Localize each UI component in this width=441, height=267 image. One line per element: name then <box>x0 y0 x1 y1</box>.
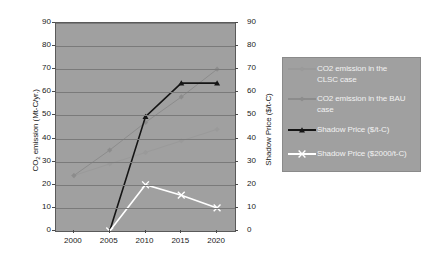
legend-item[interactable]: CO2 emission in the BAUcase <box>283 93 420 115</box>
chart-legend: CO2 emission in theCLSC caseCO2 emission… <box>282 57 421 172</box>
legend-label-line: Shadow Price ($2000/t-C) <box>317 148 407 159</box>
y-axis-left-tick-label: 40 <box>31 134 51 142</box>
gridline <box>56 115 235 116</box>
data-point-marker <box>299 66 304 71</box>
axis-tickmark <box>52 91 55 92</box>
gridline <box>56 69 235 70</box>
legend-marker-x-icon <box>295 148 309 159</box>
axis-tickmark <box>52 230 55 231</box>
legend-item[interactable]: CO2 emission in theCLSC case <box>283 63 420 85</box>
x-axis-tick-label: 2020 <box>196 236 236 245</box>
gridline <box>56 92 235 93</box>
axis-tickmark <box>52 45 55 46</box>
axis-tickmark <box>52 68 55 69</box>
legend-label-line: CO2 emission in the BAU <box>317 93 405 104</box>
y-axis-left-tick-label: 20 <box>31 180 51 188</box>
gridline <box>56 185 235 186</box>
axis-tickmark <box>235 114 238 115</box>
gridline <box>56 139 235 140</box>
legend-swatch <box>287 93 317 104</box>
axis-tickmark <box>235 45 238 46</box>
axis-tickmark <box>109 230 110 233</box>
y-axis-right-tick-label: 10 <box>247 203 256 211</box>
legend-label-line: case <box>317 104 405 115</box>
legend-label: CO2 emission in theCLSC case <box>317 63 387 85</box>
x-axis-tick-label: 2010 <box>125 236 165 245</box>
legend-item[interactable]: Shadow Price ($2000/t-C) <box>283 148 420 159</box>
y-axis-right-tick-label: 30 <box>247 157 256 165</box>
legend-label: Shadow Price ($2000/t-C) <box>317 148 407 159</box>
y-axis-right-tick-label: 0 <box>247 226 251 234</box>
gridline <box>56 23 235 24</box>
axis-tickmark <box>235 230 238 231</box>
legend-label-line: CO2 emission in the <box>317 63 387 74</box>
gridline <box>56 162 235 163</box>
y-axis-right-tick-label: 50 <box>247 110 256 118</box>
y-axis-left-tick-label: 30 <box>31 157 51 165</box>
axis-tickmark <box>235 184 238 185</box>
legend-label: Shadow Price ($/t-C) <box>317 124 389 135</box>
y-axis-right-tick-label: 70 <box>247 64 256 72</box>
axis-tickmark <box>52 207 55 208</box>
axis-tickmark <box>180 230 181 233</box>
y-axis-left-tick-label: 60 <box>31 87 51 95</box>
legend-swatch <box>287 148 317 159</box>
axis-tickmark <box>52 161 55 162</box>
gridline <box>56 46 235 47</box>
legend-marker-triangle-icon <box>295 124 309 135</box>
y-axis-right-tick-label: 20 <box>247 180 256 188</box>
data-point-marker <box>299 127 305 132</box>
axis-tickmark <box>235 22 238 23</box>
data-point-marker <box>299 150 306 157</box>
legend-swatch <box>287 63 317 74</box>
axis-tickmark <box>52 184 55 185</box>
series-layer <box>56 23 235 231</box>
axis-tickmark <box>235 91 238 92</box>
y-axis-right-tick-label: 90 <box>247 18 256 26</box>
series-0 <box>71 127 219 178</box>
legend-marker-diamond-icon <box>295 93 309 104</box>
axis-tickmark <box>235 207 238 208</box>
axis-tickmark <box>235 68 238 69</box>
axis-tickmark <box>52 22 55 23</box>
y-axis-right-tick-label: 60 <box>247 87 256 95</box>
legend-swatch <box>287 124 317 135</box>
data-point-marker <box>299 96 304 101</box>
axis-tickmark <box>73 230 74 233</box>
axis-tickmark <box>235 161 238 162</box>
y-axis-left-tick-label: 50 <box>31 110 51 118</box>
gridline <box>56 208 235 209</box>
chart-figure: CO2 emission (Mt-C/yr.) Shadow Price ($/… <box>0 0 441 267</box>
y-axis-right-tick-label: 80 <box>247 41 256 49</box>
y-axis-left-tick-label: 70 <box>31 64 51 72</box>
x-axis-tick-label: 2005 <box>89 236 129 245</box>
y-axis-left-tick-label: 0 <box>31 226 51 234</box>
legend-label: CO2 emission in the BAUcase <box>317 93 405 115</box>
y-axis-right-title: Shadow Price ($/t-C) <box>264 45 273 215</box>
y-axis-left-tick-label: 80 <box>31 41 51 49</box>
axis-tickmark <box>145 230 146 233</box>
axis-tickmark <box>216 230 217 233</box>
y-axis-left-tick-label: 90 <box>31 18 51 26</box>
legend-marker-diamond-icon <box>295 63 309 74</box>
axis-tickmark <box>235 138 238 139</box>
axis-tickmark <box>52 114 55 115</box>
legend-label-line: Shadow Price ($/t-C) <box>317 124 389 135</box>
legend-label-line: CLSC case <box>317 74 387 85</box>
legend-item[interactable]: Shadow Price ($/t-C) <box>283 124 420 135</box>
x-axis-tick-label: 2015 <box>160 236 200 245</box>
data-point-marker <box>143 150 148 155</box>
data-point-marker <box>215 127 220 132</box>
y-axis-left-tick-label: 10 <box>31 203 51 211</box>
plot-area <box>55 22 236 232</box>
axis-tickmark <box>52 138 55 139</box>
x-axis-tick-label: 2000 <box>53 236 93 245</box>
y-axis-right-tick-label: 40 <box>247 134 256 142</box>
